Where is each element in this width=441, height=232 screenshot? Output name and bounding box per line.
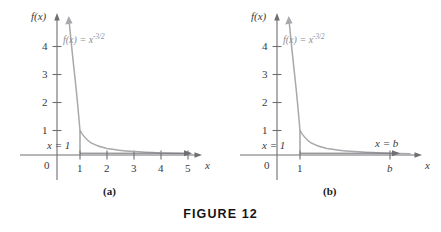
y-tick-label-3-b: 3 — [262, 69, 268, 80]
chart-b-canvas — [220, 0, 440, 205]
annotation-x-equals-b-b: x = b — [375, 138, 398, 149]
x-tick-label-3-a: 3 — [131, 163, 137, 174]
x-tick-label-5-a: 5 — [185, 163, 191, 174]
y-tick-label-3-a: 3 — [42, 69, 48, 80]
chart-panel-b: f(x) x 0 1 2 3 4 1 b f(x) = x-3/2 x = 1 … — [220, 0, 440, 205]
origin-label-b: 0 — [264, 160, 270, 171]
x-tick-label-2-a: 2 — [104, 163, 110, 174]
chart-a-canvas — [0, 0, 220, 205]
panel-label-b: (b) — [323, 186, 336, 197]
panel-label-a: (a) — [103, 186, 116, 197]
y-axis-label-a: f(x) — [31, 11, 46, 22]
y-tick-label-4-b: 4 — [262, 41, 268, 52]
y-tick-label-1-b: 1 — [262, 125, 268, 136]
y-axis-arrowhead-b — [274, 13, 280, 21]
origin-label-a: 0 — [44, 160, 50, 171]
curve-arrowhead-a — [65, 16, 72, 25]
function-exponent-b: -3/2 — [313, 33, 325, 41]
y-axis-arrowhead-a — [54, 13, 60, 21]
curve-arrowhead-b — [285, 16, 292, 25]
x-axis-arrowhead-b — [415, 152, 423, 158]
y-tick-label-2-b: 2 — [262, 97, 268, 108]
x-tick-label-1-a: 1 — [77, 163, 83, 174]
chart-panel-a: f(x) x 0 1 2 3 4 1 2 3 4 5 f(x) = x-3/2 … — [0, 0, 220, 205]
x-tick-label-1-b: 1 — [297, 163, 303, 174]
annotation-x-equals-1-a: x = 1 — [47, 140, 70, 151]
y-axis-label-b: f(x) — [251, 11, 266, 22]
x-axis-label-b: x — [425, 160, 430, 171]
figure-caption: FIGURE 12 — [0, 207, 441, 221]
x-axis-arrowhead-a — [195, 152, 203, 158]
x-axis-label-a: x — [205, 160, 210, 171]
function-exponent-a: -3/2 — [93, 33, 105, 41]
y-tick-label-1-a: 1 — [42, 125, 48, 136]
x-tick-label-b-b: b — [387, 163, 393, 174]
x-tick-label-4-a: 4 — [158, 163, 164, 174]
figure-12: f(x) x 0 1 2 3 4 1 2 3 4 5 f(x) = x-3/2 … — [0, 0, 441, 232]
annotation-x-equals-1-b: x = 1 — [262, 140, 285, 151]
y-tick-label-4-a: 4 — [42, 41, 48, 52]
function-label-b: f(x) = x-3/2 — [283, 34, 325, 45]
function-label-a: f(x) = x-3/2 — [63, 34, 105, 45]
y-tick-label-2-a: 2 — [42, 97, 48, 108]
